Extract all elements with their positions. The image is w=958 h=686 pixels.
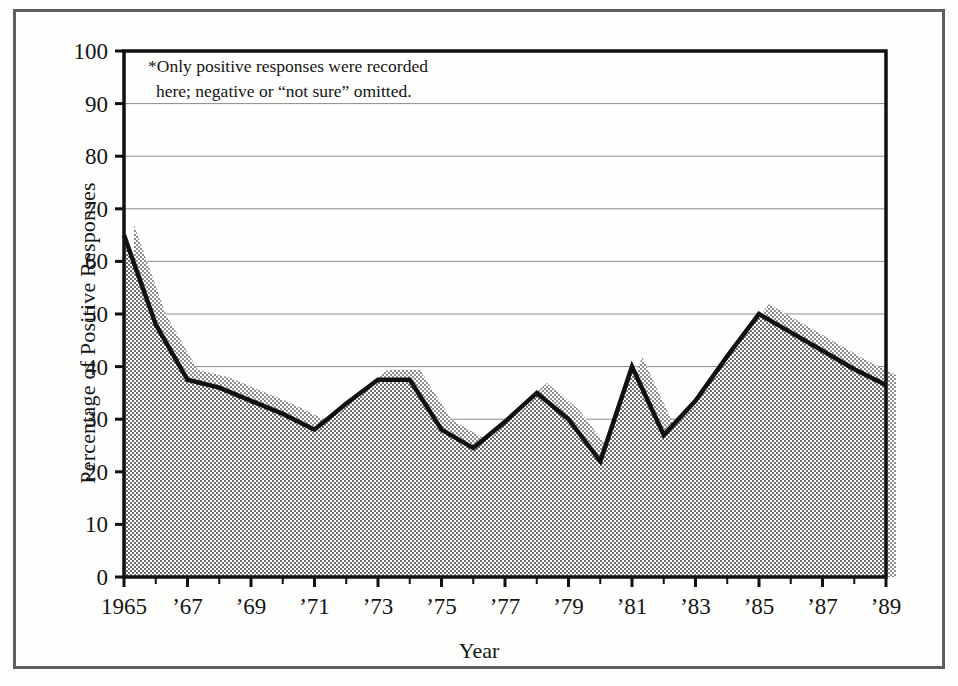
y-tick-label: 100 xyxy=(74,39,109,64)
area-fill xyxy=(124,235,886,577)
chart-plot-area: 0102030405060708090100 1965’67’69’71’73’… xyxy=(0,0,958,686)
y-tick-label: 80 xyxy=(85,144,108,169)
x-tick-label: ’77 xyxy=(490,594,521,619)
area-fill-group xyxy=(124,235,886,577)
y-tick-label: 10 xyxy=(85,512,108,537)
x-tick-label: ’75 xyxy=(426,594,457,619)
y-tick-label: 20 xyxy=(85,460,108,485)
figure-container: Percentage of Positive Responses Year 01… xyxy=(0,0,958,686)
x-tick-label: ’67 xyxy=(172,594,203,619)
y-tick-label: 0 xyxy=(97,565,109,590)
annotation-line-2: here; negative or “not sure” omitted. xyxy=(156,81,412,101)
x-tick-label: ’73 xyxy=(363,594,394,619)
y-tick-label: 90 xyxy=(85,92,108,117)
y-tick-labels-group: 0102030405060708090100 xyxy=(74,39,109,590)
y-tick-label: 50 xyxy=(85,302,108,327)
y-tick-label: 60 xyxy=(85,249,108,274)
x-tick-label: ’71 xyxy=(299,594,330,619)
x-tick-label: ’87 xyxy=(807,594,838,619)
x-tick-label: ’69 xyxy=(236,594,267,619)
y-tick-label: 70 xyxy=(85,197,108,222)
annotation-group: *Only positive responses were recorded h… xyxy=(148,56,428,101)
annotation-line-1: *Only positive responses were recorded xyxy=(148,56,428,76)
x-tick-label: ’81 xyxy=(617,594,648,619)
x-tick-labels-group: 1965’67’69’71’73’75’77’79’81’83’85’87’89 xyxy=(101,594,901,619)
x-tick-label: ’85 xyxy=(744,594,775,619)
x-tick-label: ’83 xyxy=(680,594,711,619)
x-tick-label: ’89 xyxy=(871,594,902,619)
y-tick-label: 30 xyxy=(85,407,108,432)
y-tick-label: 40 xyxy=(85,355,108,380)
x-tick-label: ’79 xyxy=(553,594,584,619)
x-tick-label: 1965 xyxy=(101,594,147,619)
